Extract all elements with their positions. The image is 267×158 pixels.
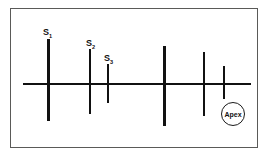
s2-label: S2 [86, 39, 95, 50]
trace-axis [23, 83, 251, 85]
arrival-marker-m4 [163, 46, 166, 126]
arrival-marker-m5 [203, 52, 205, 116]
arrival-marker-m6 [223, 66, 225, 99]
s3-label: S3 [104, 54, 113, 65]
arrival-marker-m1 [47, 39, 50, 121]
apex-marker: Apex [221, 102, 245, 126]
s1-label: S1 [43, 28, 52, 39]
s2-label-subscript: 2 [92, 44, 95, 50]
s3-label-subscript: 3 [110, 59, 113, 65]
apex-label: Apex [224, 111, 241, 118]
s1-label-subscript: 1 [49, 33, 52, 39]
figure-root: S1S2S3Apex [0, 0, 267, 158]
arrival-marker-m3 [107, 64, 109, 103]
arrival-marker-m2 [89, 49, 91, 114]
figure-frame: S1S2S3Apex [10, 8, 258, 148]
